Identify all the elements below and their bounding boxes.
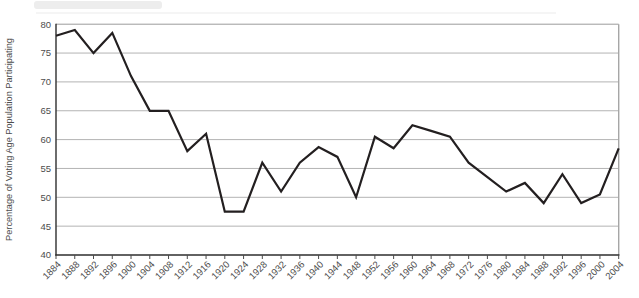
- turnout-line-series: [56, 30, 619, 212]
- x-tick-label: 2000: [584, 259, 607, 282]
- y-tick-label: 50: [40, 192, 51, 203]
- gridlines: [56, 24, 619, 255]
- x-tick-label: 1904: [134, 259, 157, 282]
- x-tick-label: 1996: [565, 259, 588, 282]
- x-tick-label: 1896: [96, 259, 119, 282]
- x-tick-label: 1940: [303, 259, 326, 282]
- x-tick-label: 1916: [190, 259, 213, 282]
- y-axis-labels: 404550556065707580: [40, 19, 51, 261]
- x-tick-label: 1972: [453, 259, 476, 282]
- x-tick-label: 1900: [115, 259, 138, 282]
- x-axis-labels: 1884188818921896190019041908191219161920…: [40, 259, 625, 282]
- y-tick-label: 65: [40, 105, 51, 116]
- x-tick-label: 1960: [397, 259, 420, 282]
- y-tick-label: 40: [40, 249, 51, 260]
- axes: [55, 24, 619, 259]
- x-tick-label: 1920: [209, 259, 232, 282]
- x-tick-label: 1976: [472, 259, 495, 282]
- x-tick-label: 1888: [59, 259, 82, 282]
- y-axis-title: Percentage of Voting Age Population Part…: [4, 38, 14, 241]
- x-tick-label: 1968: [434, 259, 457, 282]
- y-tick-label: 70: [40, 76, 51, 87]
- x-tick-label: 1908: [153, 259, 176, 282]
- x-tick-label: 1992: [547, 259, 570, 282]
- x-tick-label: 1980: [490, 259, 513, 282]
- x-tick-label: 1924: [228, 259, 251, 282]
- x-tick-label: 1984: [509, 259, 532, 282]
- x-tick-label: 1988: [528, 259, 551, 282]
- voter-turnout-chart: 404550556065707580 188418881892189619001…: [0, 0, 639, 298]
- x-tick-label: 1936: [284, 259, 307, 282]
- y-tick-label: 45: [40, 221, 51, 232]
- x-tick-label: 1944: [322, 259, 345, 282]
- x-tick-label: 1948: [340, 259, 363, 282]
- x-tick-label: 1912: [171, 259, 194, 282]
- y-tick-label: 80: [40, 19, 51, 30]
- y-tick-label: 55: [40, 163, 51, 174]
- turnout-line: [56, 30, 619, 212]
- x-tick-label: 1932: [265, 259, 288, 282]
- x-tick-label: 1928: [247, 259, 270, 282]
- x-tick-label: 1884: [40, 259, 63, 282]
- x-tick-label: 1964: [415, 259, 438, 282]
- line-chart-canvas: 404550556065707580 188418881892189619001…: [0, 0, 639, 298]
- y-tick-label: 60: [40, 134, 51, 145]
- x-tick-label: 2004: [603, 259, 626, 282]
- x-tick-label: 1952: [359, 259, 382, 282]
- y-tick-label: 75: [40, 47, 51, 58]
- x-tick-label: 1956: [378, 259, 401, 282]
- x-tick-label: 1892: [78, 259, 101, 282]
